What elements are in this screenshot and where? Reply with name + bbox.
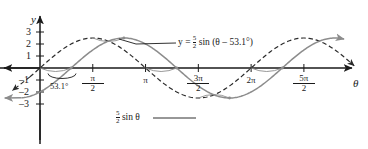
- x-axis-label: θ: [353, 78, 358, 89]
- y-tick-label-1: 2: [26, 39, 31, 49]
- shift-endpoint-dot: [70, 67, 73, 70]
- x-tick-numerator: 3π: [187, 74, 209, 83]
- x-tick-numerator: 5π: [293, 74, 315, 83]
- x-tick-label-2: 3π2: [187, 74, 209, 93]
- eq-suffix: sin (θ – 53.1°): [196, 37, 253, 47]
- y-tick-label-5: –3: [19, 99, 29, 109]
- x-tick-label-0: π2: [82, 74, 104, 93]
- shift-endpoint-dot: [228, 97, 231, 100]
- eq-prefix: y =: [178, 37, 193, 47]
- x-tick-denominator: 2: [187, 83, 209, 93]
- x-tick-label-1: π: [135, 76, 157, 85]
- x-tick-numerator: π: [82, 74, 104, 83]
- shift-endpoint-dot: [281, 67, 284, 70]
- y-tick-label-3: –1: [19, 75, 29, 85]
- shift-endpoint-dot: [123, 37, 126, 40]
- leader-line-shifted-label: [119, 39, 176, 44]
- base-curve-equation-label: 52 sin θ: [116, 110, 140, 126]
- x-tick-denominator: 2: [293, 83, 315, 93]
- y-axis-label: y: [31, 14, 36, 25]
- x-tick-label-4: 5π2: [293, 74, 315, 93]
- y-tick-label-0: 3: [26, 27, 31, 37]
- shift-endpoint-dot: [175, 67, 178, 70]
- x-tick-denominator: 2: [82, 83, 104, 93]
- sine-phase-shift-figure: y θ 321–1–2–3 π2π3π22π5π2 53.1° y = 52 s…: [0, 0, 368, 149]
- y-tick-label-4: –2: [19, 87, 29, 97]
- x-tick-label-3: 2π: [240, 76, 262, 85]
- y-tick-label-2: 1: [26, 51, 31, 61]
- phase-angle-annotation: 53.1°: [50, 82, 68, 91]
- base-eq-suffix: sin θ: [120, 112, 140, 122]
- shifted-curve-equation-label: y = 52 sin (θ – 53.1°): [178, 35, 253, 51]
